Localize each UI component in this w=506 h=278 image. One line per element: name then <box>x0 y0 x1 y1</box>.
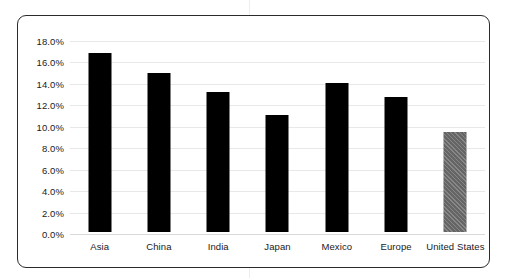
bar-china[interactable] <box>147 73 170 232</box>
y-axis-tick-label: 14.0% <box>37 79 64 90</box>
y-axis: 18.0% 16.0% 14.0% 12.0% 10.0% 8.0% 6.0% … <box>18 16 70 269</box>
bar-slot <box>129 16 188 267</box>
y-axis-tick-label: 8.0% <box>42 143 64 154</box>
x-axis-tick-label: China <box>146 241 171 252</box>
x-axis-tick-label: United States <box>426 241 484 252</box>
bar-united-states[interactable] <box>444 132 467 232</box>
bar-mexico[interactable] <box>325 83 348 232</box>
x-axis-tick-label: Japan <box>264 241 290 252</box>
y-axis-tick-label: 0.0% <box>42 229 64 240</box>
bar-series <box>70 16 485 267</box>
x-axis-tick-label: Europe <box>380 241 411 252</box>
bar-slot <box>307 16 366 267</box>
y-axis-tick-label: 6.0% <box>42 165 64 176</box>
plot-area: 18.0% 16.0% 14.0% 12.0% 10.0% 8.0% 6.0% … <box>18 16 489 267</box>
y-axis-tick-label: 2.0% <box>42 208 64 219</box>
y-axis-tick-label: 12.0% <box>37 100 64 111</box>
bar-india[interactable] <box>207 92 230 232</box>
bar-asia[interactable] <box>88 53 111 232</box>
y-axis-tick-label: 16.0% <box>37 57 64 68</box>
chart-container: 18.0% 16.0% 14.0% 12.0% 10.0% 8.0% 6.0% … <box>17 15 490 268</box>
x-axis-tick-label: Asia <box>90 241 109 252</box>
bar-europe[interactable] <box>385 97 408 232</box>
y-axis-tick-label: 10.0% <box>37 122 64 133</box>
bar-slot <box>70 16 129 267</box>
bar-slot <box>248 16 307 267</box>
x-axis-tick-label: Mexico <box>321 241 352 252</box>
y-axis-tick-label: 4.0% <box>42 186 64 197</box>
bar-slot <box>426 16 485 267</box>
y-axis-tick-label: 18.0% <box>37 36 64 47</box>
bar-slot <box>189 16 248 267</box>
x-axis-tick-label: India <box>208 241 229 252</box>
x-axis: AsiaChinaIndiaJapanMexicoEuropeUnited St… <box>70 237 485 267</box>
bar-japan[interactable] <box>266 115 289 232</box>
bar-slot <box>366 16 425 267</box>
